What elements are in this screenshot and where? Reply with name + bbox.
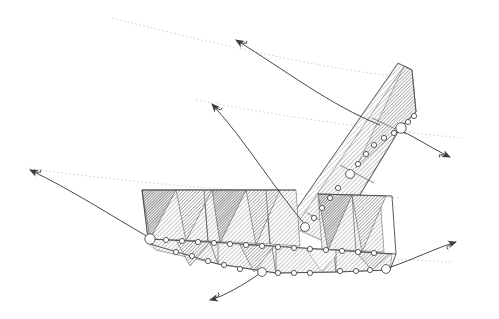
flow-arrow-6 xyxy=(210,272,262,300)
vertex-marker xyxy=(275,244,280,249)
vertex-marker xyxy=(227,241,232,246)
vertex-marker-large xyxy=(301,223,310,232)
vertex-marker xyxy=(275,270,280,275)
vertex-marker xyxy=(355,161,360,166)
dotted-guide-upper xyxy=(112,18,412,78)
flow-arrow-4 xyxy=(400,130,450,157)
vertex-marker xyxy=(205,258,210,263)
flow-arrow-5 xyxy=(388,242,456,268)
vertex-marker xyxy=(405,119,410,124)
vertex-marker-large xyxy=(145,234,155,244)
vertex-marker-large xyxy=(382,265,391,274)
vertex-marker xyxy=(237,266,242,271)
vertex-marker xyxy=(173,249,178,254)
vertex-marker xyxy=(327,195,332,200)
vertex-marker xyxy=(311,215,316,220)
vertex-marker xyxy=(189,253,194,258)
vertex-marker xyxy=(211,240,216,245)
vertex-marker xyxy=(381,135,386,140)
vertex-marker xyxy=(335,185,340,190)
vertex-marker-large xyxy=(346,170,355,179)
vertex-marker xyxy=(355,249,360,254)
vertex-marker xyxy=(371,142,376,147)
vertex-marker xyxy=(353,268,358,273)
vertex-marker xyxy=(291,245,296,250)
vertex-marker xyxy=(367,267,372,272)
geometry-diagram xyxy=(0,0,499,319)
vertex-marker xyxy=(363,151,368,156)
lower-pleated-band xyxy=(142,190,396,273)
vertex-marker xyxy=(195,239,200,244)
vertex-marker xyxy=(391,130,396,135)
vertex-marker xyxy=(319,205,324,210)
vertex-marker-large xyxy=(258,268,267,277)
vertex-marker xyxy=(371,250,376,255)
vertex-marker xyxy=(337,268,342,273)
flow-arrow-3 xyxy=(30,170,150,238)
vertex-marker xyxy=(307,246,312,251)
vertex-marker xyxy=(307,270,312,275)
vertex-marker xyxy=(243,242,248,247)
vertex-marker xyxy=(259,243,264,248)
vertex-marker xyxy=(339,248,344,253)
vertex-marker xyxy=(221,262,226,267)
vertex-marker-large xyxy=(396,123,406,133)
vertex-marker xyxy=(179,238,184,243)
figure-root xyxy=(0,0,499,319)
vertex-marker xyxy=(411,113,416,118)
vertex-marker xyxy=(323,247,328,252)
vertex-marker xyxy=(163,237,168,242)
vertex-marker xyxy=(291,270,296,275)
